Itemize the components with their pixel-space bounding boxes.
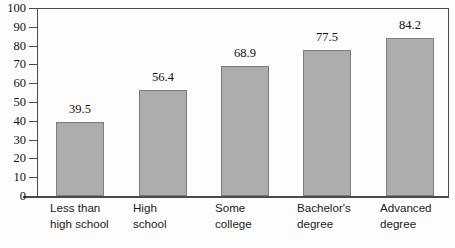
plot-area: 1009080706050403020100 39.556.468.977.58… (37, 8, 449, 196)
bar[interactable] (56, 122, 104, 196)
y-axis-tick-mark (29, 177, 37, 178)
bar-chart: 1009080706050403020100 39.556.468.977.58… (0, 0, 455, 248)
y-axis-tick-mark (29, 196, 37, 197)
x-axis-category-label-line: Some (215, 200, 252, 216)
y-axis-tick-mark (29, 158, 37, 159)
y-axis-tick-mark (29, 27, 37, 28)
y-axis-tick-label: 80 (14, 38, 27, 53)
bar-value-label: 77.5 (316, 30, 338, 45)
y-axis-tick-mark (29, 8, 37, 9)
y-axis-tick-label: 30 (14, 132, 27, 147)
y-axis-tick-label: 90 (14, 19, 27, 34)
bar[interactable] (221, 66, 269, 196)
y-axis-tick-mark (29, 102, 37, 103)
x-axis-category-label-line: high school (50, 216, 109, 232)
x-axis-category-labels: Less thanhigh schoolHighschoolSomecolleg… (37, 200, 449, 246)
x-axis-category-label: Bachelor'sdegree (297, 200, 351, 231)
bars-layer: 39.556.468.977.584.2 (37, 8, 449, 196)
y-axis-tick-label: 0 (20, 189, 26, 204)
bar[interactable] (386, 38, 434, 196)
x-axis-category-label-line: Bachelor's (297, 200, 351, 216)
y-axis-tick-mark (29, 140, 37, 141)
x-axis-category-label-line: Less than (50, 200, 109, 216)
y-axis-tick-label: 40 (14, 113, 27, 128)
bar[interactable] (303, 50, 351, 196)
x-axis-category-label: Less thanhigh school (50, 200, 109, 231)
x-axis-category-label-line: High (133, 200, 167, 216)
y-axis-tick-mark (29, 83, 37, 84)
bar-value-label: 56.4 (152, 70, 174, 85)
x-axis-baseline (23, 196, 449, 198)
x-axis-category-label-line: Advanced (380, 200, 432, 216)
x-axis-category-label: Advanceddegree (380, 200, 432, 231)
y-axis-tick-label: 50 (14, 95, 27, 110)
y-axis-tick-label: 20 (14, 151, 27, 166)
y-axis-tick-label: 100 (7, 1, 26, 16)
x-axis-category-label-line: degree (297, 216, 351, 232)
y-axis-tick-mark (29, 121, 37, 122)
y-axis-tick-mark (29, 46, 37, 47)
x-axis-category-label-line: school (133, 216, 167, 232)
bar-value-label: 68.9 (234, 46, 256, 61)
x-axis-category-label-line: degree (380, 216, 432, 232)
bar-value-label: 39.5 (69, 102, 91, 117)
x-axis-category-label-line: college (215, 216, 252, 232)
y-axis-tick-label: 60 (14, 76, 27, 91)
y-axis-tick-label: 10 (14, 170, 27, 185)
bar-value-label: 84.2 (399, 18, 421, 33)
y-axis-tick-mark (29, 64, 37, 65)
x-axis-category-label: Somecollege (215, 200, 252, 231)
x-axis-category-label: Highschool (133, 200, 167, 231)
y-axis-tick-label: 70 (14, 57, 27, 72)
bar[interactable] (139, 90, 187, 196)
